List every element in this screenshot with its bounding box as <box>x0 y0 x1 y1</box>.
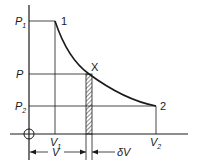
p-label: P <box>16 68 24 80</box>
point-1-label: 1 <box>61 15 67 27</box>
v-dim-arrow-right-icon <box>80 150 86 155</box>
dv-dimension-label: δV <box>117 146 132 158</box>
expansion-curve <box>55 21 156 106</box>
p1-label: P1 <box>15 15 26 29</box>
p2-label: P2 <box>15 100 26 114</box>
v-dim-arrow-left-icon <box>30 150 36 155</box>
point-2-label: 2 <box>160 100 166 112</box>
dv-dim-arrow-icon <box>92 150 98 155</box>
v2-label: V2 <box>150 136 161 150</box>
pv-diagram: P1 P P2 1 X 2 V1 V2 V δV <box>0 0 197 164</box>
point-x-label: X <box>91 61 99 73</box>
dv-strip <box>86 74 92 134</box>
